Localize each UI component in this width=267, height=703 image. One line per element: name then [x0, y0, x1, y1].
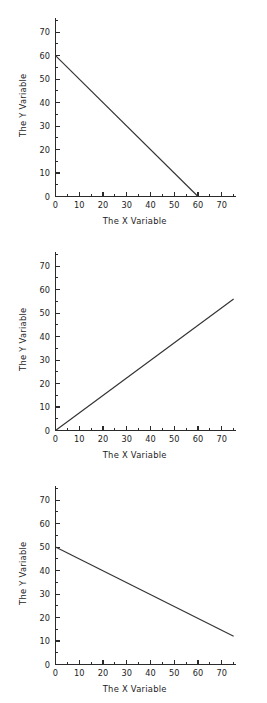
x-tick-label: 0	[53, 668, 58, 678]
y-tick-label: 30	[39, 355, 50, 365]
y-tick-label: 30	[39, 589, 50, 599]
y-tick-label: 50	[39, 74, 50, 84]
x-axis-title: The X Variable	[102, 450, 167, 460]
x-tick-label: 50	[169, 434, 180, 444]
x-tick-label: 40	[145, 668, 156, 678]
y-tick-label: 60	[39, 285, 50, 295]
x-tick-label: 30	[121, 668, 132, 678]
x-tick-label: 20	[98, 668, 109, 678]
chart-canvas: 010203040506070010203040506070The X Vari…	[0, 468, 267, 702]
x-tick-label: 60	[193, 668, 204, 678]
x-tick-label: 70	[216, 200, 227, 210]
y-tick-label: 70	[39, 495, 50, 505]
chart-page: 010203040506070010203040506070The X Vari…	[0, 0, 267, 703]
x-axis-title: The X Variable	[102, 684, 167, 694]
y-tick-label: 0	[45, 660, 50, 670]
y-tick-label: 10	[39, 636, 50, 646]
chart-canvas: 010203040506070010203040506070The X Vari…	[0, 0, 267, 234]
y-axis-title: The Y Variable	[18, 74, 28, 138]
x-tick-label: 70	[216, 668, 227, 678]
x-tick-label: 10	[74, 200, 85, 210]
y-axis-title: The Y Variable	[18, 308, 28, 372]
chart-3: 010203040506070010203040506070The X Vari…	[0, 468, 267, 702]
x-tick-label: 50	[169, 200, 180, 210]
y-tick-label: 20	[39, 379, 50, 389]
chart-canvas: 010203040506070010203040506070The X Vari…	[0, 234, 267, 468]
x-axis-title: The X Variable	[102, 216, 167, 226]
y-tick-label: 40	[39, 332, 50, 342]
x-tick-label: 60	[193, 200, 204, 210]
y-tick-label: 70	[39, 27, 50, 37]
data-series-line	[56, 299, 234, 431]
chart-2: 010203040506070010203040506070The X Vari…	[0, 234, 267, 468]
x-tick-label: 40	[145, 434, 156, 444]
x-tick-label: 20	[98, 434, 109, 444]
x-tick-label: 40	[145, 200, 156, 210]
y-axis-title: The Y Variable	[18, 542, 28, 606]
y-tick-label: 10	[39, 402, 50, 412]
y-tick-label: 50	[39, 308, 50, 318]
y-tick-label: 20	[39, 613, 50, 623]
y-tick-label: 60	[39, 51, 50, 61]
x-tick-label: 30	[121, 200, 132, 210]
x-tick-label: 60	[193, 434, 204, 444]
data-series-line	[56, 547, 234, 636]
y-tick-label: 0	[45, 192, 50, 202]
x-tick-label: 50	[169, 668, 180, 678]
chart-1: 010203040506070010203040506070The X Vari…	[0, 0, 267, 234]
y-tick-label: 70	[39, 261, 50, 271]
y-tick-label: 20	[39, 145, 50, 155]
y-tick-label: 30	[39, 121, 50, 131]
x-tick-label: 20	[98, 200, 109, 210]
y-tick-label: 40	[39, 566, 50, 576]
x-tick-label: 10	[74, 668, 85, 678]
y-tick-label: 60	[39, 519, 50, 529]
y-tick-label: 40	[39, 98, 50, 108]
x-tick-label: 30	[121, 434, 132, 444]
y-tick-label: 0	[45, 426, 50, 436]
x-tick-label: 0	[53, 200, 58, 210]
x-tick-label: 10	[74, 434, 85, 444]
x-tick-label: 70	[216, 434, 227, 444]
data-series-line	[56, 56, 199, 197]
x-tick-label: 0	[53, 434, 58, 444]
y-tick-label: 50	[39, 542, 50, 552]
y-tick-label: 10	[39, 168, 50, 178]
